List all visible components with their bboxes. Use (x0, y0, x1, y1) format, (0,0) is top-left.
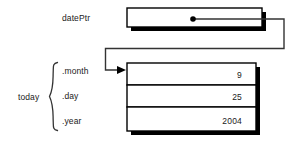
struct-brace (50, 63, 58, 131)
diagram-graphics (0, 0, 290, 149)
field-value-month: 9 (180, 70, 242, 80)
pointer-variable-label: datePtr (62, 13, 90, 23)
field-label-month: .month (62, 66, 89, 76)
pointer-struct-diagram: datePtr today .month .day .year 9 25 200… (0, 0, 290, 149)
pointer-arrowhead (117, 66, 126, 74)
field-value-year: 2004 (180, 116, 242, 126)
struct-variable-label: today (18, 92, 39, 102)
field-label-year: .year (62, 116, 81, 126)
field-value-day: 25 (180, 92, 242, 102)
field-label-day: .day (62, 91, 78, 101)
pointer-origin-dot (190, 16, 196, 22)
